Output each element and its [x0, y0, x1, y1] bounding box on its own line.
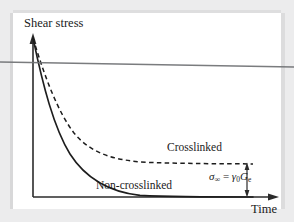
- scan-artifact-line: [0, 62, 294, 67]
- infinity-subscript: ∞: [214, 175, 220, 184]
- curve-label-non-crosslinked: Non-crosslinked: [96, 180, 172, 192]
- x-axis-label: Time: [251, 203, 277, 216]
- y-axis-label: Shear stress: [24, 17, 83, 30]
- equals-symbol: =: [223, 170, 229, 182]
- x-axis-arrow-icon: [268, 194, 279, 201]
- figure-container: Shear stress Time Crosslinked Non-crossl…: [0, 0, 294, 222]
- modulus-symbol: G: [240, 170, 248, 182]
- equilibrium-stress-equation: σ∞ = γ0Ge: [209, 171, 251, 182]
- gamma-subscript: 0: [236, 175, 240, 184]
- curve-label-crosslinked: Crosslinked: [167, 142, 222, 154]
- modulus-subscript: e: [248, 175, 251, 184]
